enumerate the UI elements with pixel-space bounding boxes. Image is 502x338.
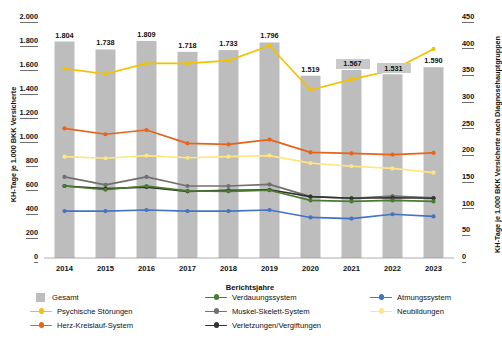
line-series bbox=[62, 184, 435, 200]
bar bbox=[178, 52, 198, 258]
bar-value-label: 1.531 bbox=[377, 63, 411, 73]
data-point bbox=[144, 175, 148, 179]
bar-value-label: 1.519 bbox=[295, 65, 327, 74]
bar-value-label: 1.804 bbox=[49, 31, 81, 40]
bar bbox=[342, 70, 362, 258]
bar-value-label: 1.796 bbox=[254, 31, 286, 40]
y-axis-right-tick: 400 bbox=[462, 39, 488, 50]
legend-label: Verdauungssystem bbox=[232, 293, 297, 302]
legend-item[interactable]: Verdauungssystem bbox=[205, 293, 297, 302]
data-point bbox=[390, 152, 394, 156]
data-point bbox=[62, 184, 66, 188]
data-point bbox=[103, 188, 107, 192]
legend-item[interactable]: Neubildungen bbox=[370, 307, 444, 316]
data-point bbox=[103, 132, 107, 136]
legend-bar-swatch bbox=[36, 293, 45, 302]
data-point bbox=[103, 183, 107, 187]
y-axis-left-tick: 600 bbox=[8, 180, 38, 191]
data-point bbox=[62, 155, 66, 159]
legend-label: Muskel-Skelett-System bbox=[232, 307, 310, 316]
data-point bbox=[226, 142, 230, 146]
legend-item[interactable]: Atmungssystem bbox=[370, 293, 451, 302]
x-axis-tick: 2018 bbox=[209, 264, 249, 273]
data-point bbox=[62, 126, 66, 130]
data-point bbox=[349, 199, 353, 203]
line-series bbox=[62, 208, 435, 221]
data-point bbox=[144, 208, 148, 212]
data-point bbox=[226, 189, 230, 193]
data-point bbox=[308, 88, 312, 92]
legend-label: Atmungssystem bbox=[397, 293, 451, 302]
data-point bbox=[185, 61, 189, 65]
y-axis-right-tick: 0 bbox=[462, 252, 488, 263]
y-axis-left-tick: 1.400 bbox=[8, 84, 38, 95]
legend-line-swatch bbox=[370, 293, 392, 302]
data-point bbox=[267, 138, 271, 142]
data-point bbox=[308, 161, 312, 165]
bar-value-label: 1.809 bbox=[131, 30, 163, 39]
x-axis-tick: 2019 bbox=[250, 264, 290, 273]
x-axis-tick: 2020 bbox=[291, 264, 331, 273]
y-axis-right-tick: 350 bbox=[462, 65, 488, 76]
data-point bbox=[431, 214, 435, 218]
legend-label: Herz-Kreislauf-System bbox=[57, 321, 133, 330]
data-point bbox=[390, 212, 394, 216]
legend-item[interactable]: Herz-Kreislauf-System bbox=[30, 321, 133, 330]
x-axis-tick: 2014 bbox=[45, 264, 85, 273]
chart-legend: GesamtVerdauungssystemAtmungssystemPsych… bbox=[30, 293, 500, 338]
data-point bbox=[431, 171, 435, 175]
x-axis-title: Berichtsjahre bbox=[0, 283, 500, 292]
data-point bbox=[103, 72, 107, 76]
y-axis-right-tick: 250 bbox=[462, 119, 488, 130]
legend-item[interactable]: Psychische Störungen bbox=[30, 307, 133, 316]
data-point bbox=[144, 128, 148, 132]
line-series bbox=[62, 126, 435, 156]
data-point bbox=[390, 166, 394, 170]
legend-label: Neubildungen bbox=[397, 307, 444, 316]
legend-item[interactable]: Gesamt bbox=[30, 293, 79, 302]
data-point bbox=[185, 141, 189, 145]
legend-line-swatch bbox=[30, 307, 52, 316]
data-point bbox=[62, 67, 66, 71]
y-axis-left-tick: 0 bbox=[8, 252, 38, 263]
legend-line-swatch bbox=[370, 307, 392, 316]
data-point bbox=[267, 182, 271, 186]
chart-svg bbox=[44, 18, 454, 259]
legend-item[interactable]: Verletzungen/Vergiftungen bbox=[205, 321, 321, 330]
data-point bbox=[267, 44, 271, 48]
legend-label: Psychische Störungen bbox=[57, 307, 133, 316]
y-axis-left-tick: 2.000 bbox=[8, 12, 38, 23]
bar-value-label: 1.567 bbox=[336, 59, 370, 69]
y-axis-left-tick: 400 bbox=[8, 204, 38, 215]
data-point bbox=[267, 154, 271, 158]
x-axis-tick: 2016 bbox=[127, 264, 167, 273]
data-point bbox=[226, 59, 230, 63]
data-point bbox=[185, 189, 189, 193]
bar bbox=[260, 42, 280, 258]
y-axis-right-tick: 50 bbox=[462, 225, 488, 236]
data-point bbox=[349, 216, 353, 220]
y-axis-right-tick: 200 bbox=[462, 145, 488, 156]
data-point bbox=[62, 175, 66, 179]
y-axis-right-tick: 300 bbox=[462, 92, 488, 103]
data-point bbox=[185, 156, 189, 160]
series-line bbox=[65, 128, 434, 154]
y-axis-right-tick: 150 bbox=[462, 172, 488, 183]
legend-line-swatch bbox=[205, 307, 227, 316]
y-axis-left-tick: 1.800 bbox=[8, 36, 38, 47]
bar-value-label: 1.738 bbox=[90, 38, 122, 47]
line-series bbox=[62, 154, 435, 175]
data-point bbox=[103, 156, 107, 160]
data-point bbox=[390, 198, 394, 202]
data-point bbox=[144, 61, 148, 65]
data-point bbox=[226, 209, 230, 213]
legend-item[interactable]: Muskel-Skelett-System bbox=[205, 307, 310, 316]
data-point bbox=[349, 77, 353, 81]
data-point bbox=[226, 155, 230, 159]
data-point bbox=[226, 184, 230, 188]
data-point bbox=[267, 188, 271, 192]
data-point bbox=[349, 151, 353, 155]
data-point bbox=[103, 209, 107, 213]
data-point bbox=[431, 151, 435, 155]
